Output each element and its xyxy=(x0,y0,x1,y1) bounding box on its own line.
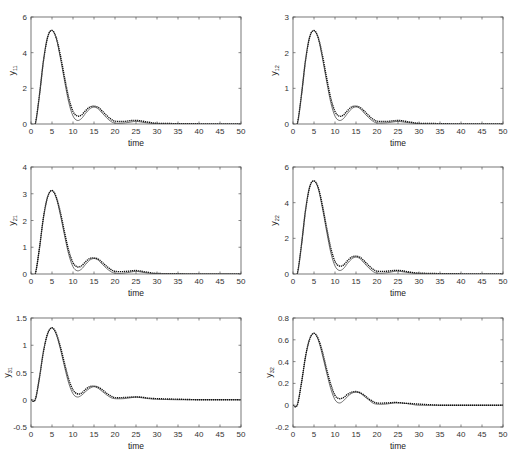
y-tick-label: 0 xyxy=(23,270,28,279)
series-output-line xyxy=(31,191,241,276)
series-output-line xyxy=(293,333,503,407)
y-axis-label: y21 xyxy=(7,215,18,226)
y-axis-label: y32 xyxy=(264,367,275,378)
x-tick-label: 45 xyxy=(478,277,487,286)
x-tick-label: 15 xyxy=(90,430,99,439)
y-tick-label: 3 xyxy=(23,190,28,199)
x-tick-label: 45 xyxy=(478,430,487,439)
x-tick-label: 0 xyxy=(291,127,296,136)
y-tick-label: 0.2 xyxy=(278,379,290,388)
x-tick-label: 50 xyxy=(237,127,246,136)
subplot-y11: 051015202530354045500246timey11 xyxy=(7,13,246,148)
y-tick-label: -0.2 xyxy=(275,423,289,432)
y-tick-label: 2 xyxy=(285,234,290,243)
subplot-y22: 051015202530354045500246timey22 xyxy=(269,163,508,298)
x-tick-label: 30 xyxy=(153,127,162,136)
y-tick-label: 1 xyxy=(23,243,28,252)
x-tick-label: 5 xyxy=(50,277,55,286)
x-tick-label: 35 xyxy=(174,277,183,286)
x-tick-label: 35 xyxy=(436,277,445,286)
y-tick-label: 4 xyxy=(23,49,28,58)
y-tick-label: 0.6 xyxy=(278,336,290,345)
series-reference-line xyxy=(31,191,241,276)
y-tick-label: 3 xyxy=(285,13,290,22)
series-reference-line xyxy=(293,31,503,127)
y-tick-label: 6 xyxy=(285,163,290,172)
y-tick-label: 0.4 xyxy=(278,358,290,367)
x-tick-label: 45 xyxy=(216,277,225,286)
series-output-line xyxy=(31,30,241,126)
x-tick-label: 30 xyxy=(415,277,424,286)
x-tick-label: 0 xyxy=(29,277,34,286)
x-tick-label: 35 xyxy=(436,430,445,439)
series-output-line xyxy=(31,328,241,402)
series-output-line xyxy=(293,181,503,276)
x-tick-label: 15 xyxy=(90,277,99,286)
plot-area xyxy=(31,328,241,402)
y-axis-label: y12 xyxy=(269,65,280,76)
x-tick-label: 25 xyxy=(132,430,141,439)
x-tick-label: 40 xyxy=(195,430,204,439)
x-tick-label: 25 xyxy=(394,127,403,136)
subplot-y12: 051015202530354045500123timey12 xyxy=(269,13,508,148)
x-tick-label: 35 xyxy=(174,430,183,439)
plot-area xyxy=(293,31,503,127)
plot-area xyxy=(293,333,503,407)
x-axis-label: time xyxy=(128,288,144,298)
x-tick-label: 25 xyxy=(394,430,403,439)
x-tick-label: 20 xyxy=(373,277,382,286)
x-tick-label: 50 xyxy=(499,430,508,439)
y-tick-label: 0.8 xyxy=(278,314,290,323)
y-tick-label: -0.5 xyxy=(13,423,27,432)
y-tick-label: 4 xyxy=(23,163,28,172)
y-tick-label: 0 xyxy=(285,401,290,410)
series-output-line xyxy=(293,31,503,127)
axes-box xyxy=(293,318,503,427)
x-tick-label: 40 xyxy=(457,430,466,439)
series-reference-line xyxy=(31,30,241,126)
x-tick-label: 15 xyxy=(352,430,361,439)
x-tick-label: 20 xyxy=(111,277,120,286)
x-tick-label: 25 xyxy=(132,277,141,286)
series-reference-line xyxy=(293,333,503,407)
x-tick-label: 15 xyxy=(352,277,361,286)
subplot-y31: 05101520253035404550-0.500.511.5timey31 xyxy=(2,314,246,451)
x-tick-label: 45 xyxy=(478,127,487,136)
y-tick-label: 6 xyxy=(23,13,28,22)
y-tick-label: 0 xyxy=(23,396,28,405)
x-tick-label: 25 xyxy=(132,127,141,136)
y-tick-label: 2 xyxy=(285,49,290,58)
x-tick-label: 30 xyxy=(415,430,424,439)
x-tick-label: 50 xyxy=(237,430,246,439)
y-tick-label: 4 xyxy=(285,199,290,208)
x-tick-label: 40 xyxy=(457,277,466,286)
x-axis-label: time xyxy=(128,441,144,451)
x-tick-label: 10 xyxy=(69,277,78,286)
x-tick-label: 20 xyxy=(111,127,120,136)
x-tick-label: 0 xyxy=(291,277,296,286)
y-tick-label: 2 xyxy=(23,84,28,93)
x-tick-label: 45 xyxy=(216,127,225,136)
plot-area xyxy=(31,30,241,126)
x-tick-label: 5 xyxy=(312,277,317,286)
x-tick-label: 15 xyxy=(90,127,99,136)
x-tick-label: 50 xyxy=(237,277,246,286)
series-reference-line xyxy=(293,181,503,276)
x-tick-label: 50 xyxy=(499,127,508,136)
x-tick-label: 35 xyxy=(174,127,183,136)
y-axis-label: y22 xyxy=(269,215,280,226)
x-tick-label: 15 xyxy=(352,127,361,136)
x-tick-label: 0 xyxy=(29,430,34,439)
x-tick-label: 10 xyxy=(331,277,340,286)
axes-box xyxy=(31,318,241,427)
x-tick-label: 35 xyxy=(436,127,445,136)
y-tick-label: 0 xyxy=(285,120,290,129)
x-tick-label: 5 xyxy=(50,127,55,136)
x-tick-label: 40 xyxy=(195,127,204,136)
subplot-y32: 05101520253035404550-0.200.20.40.60.8tim… xyxy=(264,314,508,451)
plot-area xyxy=(293,181,503,276)
y-axis-label: y11 xyxy=(7,65,18,75)
y-tick-label: 1.5 xyxy=(16,314,28,323)
subplot-y21: 0510152025303540455001234timey21 xyxy=(7,163,246,298)
y-tick-label: 0 xyxy=(285,270,290,279)
